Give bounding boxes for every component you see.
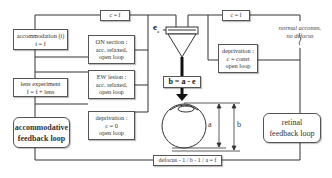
deprivation-const-formula: c = const (227, 55, 250, 63)
lens-experiment-label: lens experiment (20, 80, 60, 88)
ew-lesion-title: EW lesion : (97, 73, 127, 81)
on-section-title: ON section : (96, 38, 128, 46)
c-equals-f-text: c = f (230, 12, 241, 20)
lens-experiment-box: lens experiment f = f + lens (13, 78, 68, 97)
lens-experiment-formula: f = f + lens (27, 88, 55, 96)
normal-note-line1: normal accomm. (270, 24, 330, 32)
eye-icon (162, 104, 206, 148)
on-section-box: ON section : acc. relaxed, open loop (88, 35, 135, 64)
defocus-formula: defocus - 1 / b - 1 / a = f (158, 157, 216, 165)
retinal-loop-line2: feedback loop (269, 128, 314, 139)
deprivation-title: deprivation : (95, 114, 127, 122)
normal-accommodation-note: normal accomm. no defocus (270, 24, 330, 39)
accommodation-label: accommodation (i) (17, 32, 65, 40)
accommodative-loop-line1: accommodative (15, 122, 68, 133)
ew-lesion-line3: open loop (99, 88, 124, 96)
deprivation-const-title: deprivation : (222, 47, 254, 55)
c-equals-f-box-right: c = f (222, 10, 250, 21)
accommodation-formula: i = f (35, 40, 46, 48)
c-equals-f-text: c = f (109, 12, 120, 20)
accommodative-feedback-loop: accommodative feedback loop (13, 117, 70, 148)
down-arrow-icon (176, 88, 188, 101)
funnel-lens-icon (166, 27, 198, 57)
deprivation-zero-box: deprivation : c = 0 open loop (88, 111, 135, 140)
on-section-line2: acc. relaxed, (96, 46, 128, 54)
deprivation-line3: open loop (99, 129, 124, 137)
accommodative-loop-line2: feedback loop (18, 133, 65, 144)
deprivation-formula: c = 0 (105, 122, 118, 130)
ea-label: ea (153, 22, 159, 34)
ew-lesion-box: EW lesion : acc. relaxed, open loop (88, 70, 135, 99)
defocus-box: defocus - 1 / b - 1 / a = f (153, 155, 222, 166)
dimension-a-label: a (208, 120, 212, 129)
on-section-line3: open loop (99, 53, 124, 61)
retinal-feedback-loop: retinal feedback loop (263, 113, 321, 143)
ea-subscript: a (157, 29, 159, 34)
b-formula-text: b = a - e (168, 78, 195, 86)
ew-lesion-line2: acc. relaxed, (96, 81, 128, 89)
b-formula-box: b = a - e (163, 76, 201, 88)
retinal-loop-line1: retinal (282, 117, 302, 128)
dimension-b-label: b (237, 120, 241, 129)
c-equals-f-box-left: c = f (100, 10, 130, 21)
deprivation-const-box: deprivation : c = const open loop (218, 44, 258, 73)
deprivation-const-line3: open loop (225, 62, 250, 70)
normal-note-line2: no defocus (270, 32, 330, 40)
accommodation-box: accommodation (i) i = f (13, 29, 68, 50)
